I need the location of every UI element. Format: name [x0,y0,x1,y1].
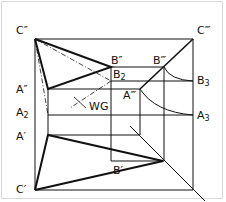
arc-b3 [164,67,193,81]
dashdot-upper [35,39,111,81]
label-b-triple-prime: B‴ [153,54,167,67]
drawing-canvas: C″ C‴ B″ B‴ B2 B3 A″ A‴ WG A2 A3 A′ B′ C… [0,0,226,202]
label-b-double-prime: B″ [111,54,123,67]
label-wg: WG [89,100,108,113]
label-c-double-prime: C″ [16,24,28,37]
label-a-triple-prime: A‴ [123,89,137,102]
dashdot-left [35,39,48,115]
projection-drawing: C″ C‴ B″ B‴ B2 B3 A″ A‴ WG A2 A3 A′ B′ C… [0,0,226,202]
triangle-top-view [35,135,163,190]
label-c-prime: C′ [16,183,27,196]
arc-a3 [140,89,193,115]
label-b2: B2 [113,68,126,82]
triangle-front-view [35,39,111,89]
label-c-triple-prime: C‴ [197,24,211,37]
label-a-double-prime: A″ [16,83,28,96]
label-a-prime: A′ [16,130,27,143]
label-b3: B3 [197,74,210,88]
label-b-prime: B′ [113,164,124,177]
label-a2: A2 [16,106,29,120]
label-a3: A3 [197,109,210,123]
